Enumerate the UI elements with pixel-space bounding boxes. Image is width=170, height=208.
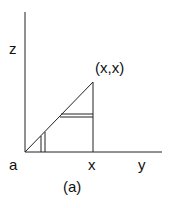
point-label: (x,x) [95,60,124,75]
y-axis-label: y [138,157,146,172]
integration-region-diagram [0,0,170,208]
origin-label: a [9,157,17,172]
x-tick-label: x [88,157,96,172]
z-axis-label: z [9,41,17,56]
caption-label: (a) [63,179,81,194]
